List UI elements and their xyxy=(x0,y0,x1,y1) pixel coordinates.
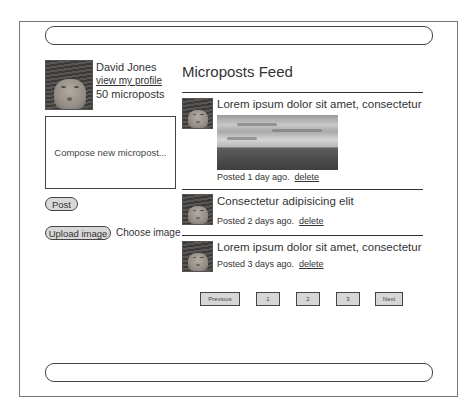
upload-image-button[interactable]: Upload image xyxy=(45,226,111,240)
post-meta: Posted 1 day ago.delete xyxy=(217,172,319,182)
post-image xyxy=(217,115,338,170)
post-timestamp: Posted 3 days ago. xyxy=(217,259,294,269)
profile-avatar xyxy=(45,60,93,110)
compose-placeholder: Compose new micropost... xyxy=(54,147,166,158)
page-label: 1 xyxy=(266,296,269,302)
micropost-count: 50 microposts xyxy=(96,88,164,100)
post-text: Lorem ipsum dolor sit amet, consectetur xyxy=(217,98,422,110)
footer-bar xyxy=(45,363,433,382)
post-avatar xyxy=(182,194,213,225)
post-divider xyxy=(182,189,423,190)
post-divider xyxy=(182,235,423,236)
view-profile-link[interactable]: view my profile xyxy=(96,75,162,86)
choose-image-label: Choose image xyxy=(116,227,180,238)
post-meta: Posted 2 days ago.delete xyxy=(217,216,324,226)
compose-micropost-textarea[interactable]: Compose new micropost... xyxy=(45,116,176,189)
page-label: 2 xyxy=(306,296,309,302)
delete-link[interactable]: delete xyxy=(299,259,324,269)
feed-divider xyxy=(182,92,423,93)
pagination-next-button[interactable]: Next xyxy=(375,292,403,306)
post-avatar xyxy=(182,98,213,129)
post-button-label: Post xyxy=(52,199,71,210)
pagination-page-2[interactable]: 2 xyxy=(296,292,320,306)
profile-name: David Jones xyxy=(96,61,157,73)
feed-title: Microposts Feed xyxy=(182,63,293,80)
post-text: Lorem ipsum dolor sit amet, consectetur xyxy=(217,241,422,253)
pagination-previous-button[interactable]: Previous xyxy=(200,292,240,306)
post-timestamp: Posted 2 days ago. xyxy=(217,216,294,226)
previous-label: Previous xyxy=(208,296,231,302)
pagination-page-1[interactable]: 1 xyxy=(256,292,280,306)
delete-link[interactable]: delete xyxy=(299,216,324,226)
pagination-page-3[interactable]: 3 xyxy=(336,292,360,306)
post-text: Consectetur adipisicing elit xyxy=(217,195,354,207)
post-button[interactable]: Post xyxy=(45,197,78,211)
post-avatar xyxy=(182,241,213,272)
header-bar xyxy=(45,26,433,45)
upload-button-label: Upload image xyxy=(49,228,108,239)
next-label: Next xyxy=(383,296,395,302)
post-timestamp: Posted 1 day ago. xyxy=(217,172,290,182)
delete-link[interactable]: delete xyxy=(295,172,320,182)
page-label: 3 xyxy=(346,296,349,302)
post-meta: Posted 3 days ago.delete xyxy=(217,259,324,269)
